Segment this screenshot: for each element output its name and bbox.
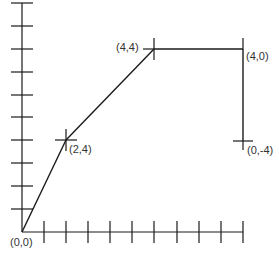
label-point-4-4: (4,4) xyxy=(116,42,139,53)
segment-2-4-to-4-4 xyxy=(66,49,154,140)
label-origin: (0,0) xyxy=(10,237,33,248)
vertex-markers xyxy=(55,38,253,151)
label-point-4-0: (4,0) xyxy=(246,51,269,62)
label-point-0-neg4: (0,-4) xyxy=(247,145,273,156)
label-point-2-4: (2,4) xyxy=(69,144,92,155)
coordinate-diagram xyxy=(0,0,279,253)
